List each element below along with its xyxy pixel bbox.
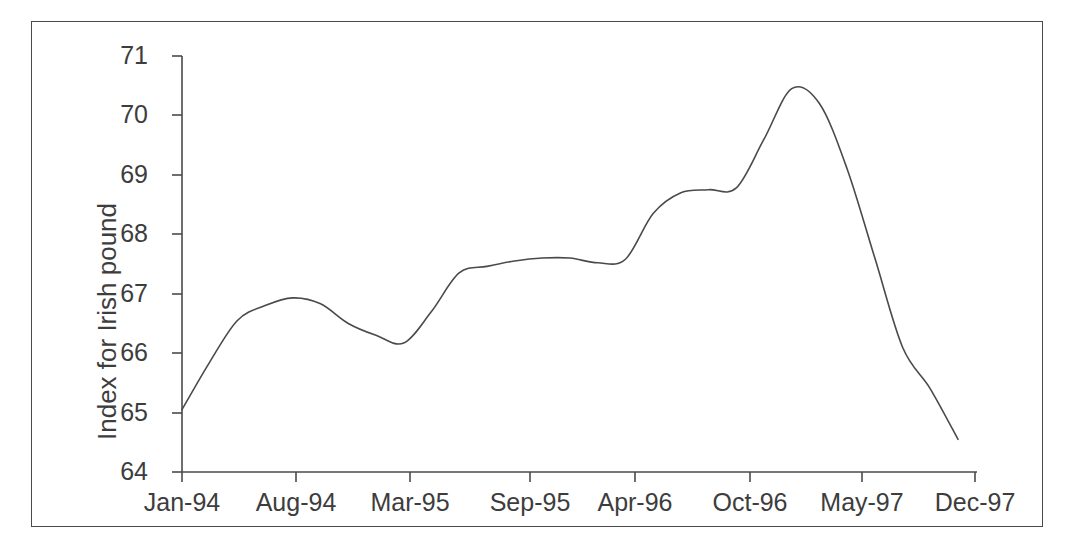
figure-container: Index for Irish pound 71 70 69 68 67 66 … xyxy=(0,0,1072,549)
data-line-irish-pound-index xyxy=(182,87,958,440)
x-axis-ticks xyxy=(182,472,975,482)
y-axis-ticks xyxy=(172,56,182,472)
plot-area xyxy=(0,0,1072,549)
